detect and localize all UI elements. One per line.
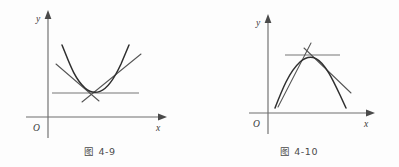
tangent-line-left-b	[82, 54, 141, 102]
figure-left-caption: 图 4-9	[0, 144, 200, 158]
y-axis-arrowhead-left	[45, 10, 52, 19]
x-axis-arrowhead-right	[366, 110, 375, 117]
concave-parabola-plot: y x O	[199, 0, 399, 145]
figure-right-caption: 图 4-10	[199, 144, 399, 158]
x-axis-label-right: x	[363, 119, 369, 129]
concave-parabola-curve	[275, 57, 346, 108]
figure-right: y x O 图 4-10	[199, 0, 399, 167]
origin-label-right: O	[253, 119, 260, 129]
x-axis-label-left: x	[155, 123, 161, 133]
y-axis-label-right: y	[255, 18, 261, 28]
convex-parabola-plot: y x O	[0, 0, 200, 145]
x-axis-arrowhead-left	[158, 114, 167, 121]
tangent-line-right-a	[278, 43, 311, 107]
origin-label-left: O	[33, 123, 40, 133]
y-axis-label-left: y	[35, 14, 41, 24]
y-axis-arrowhead-right	[265, 14, 272, 23]
figure-left: y x O 图 4-9	[0, 0, 200, 167]
tangent-line-left-a	[56, 64, 99, 101]
figure-page: y x O 图 4-9 y x O 图 4-10	[0, 0, 399, 167]
convex-parabola-curve	[62, 45, 129, 92]
